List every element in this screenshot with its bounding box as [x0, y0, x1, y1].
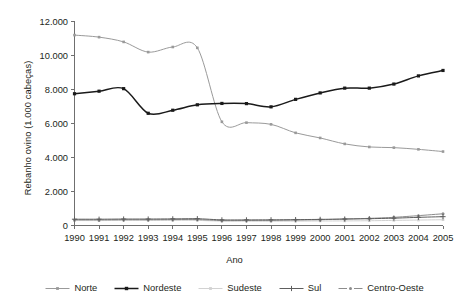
legend-label: Nordeste	[143, 283, 181, 292]
line-chart-figure: Rebanho ovino (1.000 cabeças) Ano 02.000…	[0, 0, 469, 302]
x-tick-label: 1990	[64, 233, 85, 243]
legend-swatch-square-icon	[45, 283, 70, 294]
y-tick-label: 0	[63, 221, 68, 231]
x-tick-label: 2000	[310, 233, 331, 243]
y-tick-label: 2.000	[45, 187, 68, 197]
plot-area: 02.0004.0006.0008.00010.00012.000 199019…	[0, 0, 469, 302]
y-tick-label: 4.000	[45, 153, 68, 163]
legend-swatch-dot-icon	[338, 283, 363, 294]
x-tick-label: 2005	[433, 233, 454, 243]
x-tick-label: 1991	[89, 233, 110, 243]
legend-swatch-cross-icon	[279, 283, 304, 294]
x-tick-label: 1993	[138, 233, 159, 243]
data-series-group	[72, 34, 446, 223]
x-tick-label: 1997	[236, 233, 257, 243]
y-tick-label: 10.000	[40, 51, 68, 61]
legend-item-sul[interactable]: Sul	[279, 283, 322, 294]
x-tick-label: 2003	[384, 233, 405, 243]
x-tick-label: 1995	[187, 233, 208, 243]
x-tick-label: 2002	[359, 233, 380, 243]
legend-label: Sul	[308, 283, 322, 292]
legend-item-sudeste[interactable]: Sudeste	[198, 283, 261, 294]
legend-swatch-square-icon	[198, 283, 223, 294]
y-axis-ticks: 02.0004.0006.0008.00010.00012.000	[40, 17, 75, 231]
x-tick-label: 1996	[212, 233, 233, 243]
x-tick-label: 2001	[334, 233, 355, 243]
legend-item-centro-oeste[interactable]: Centro-Oeste	[338, 283, 423, 294]
series-nordeste	[73, 69, 445, 115]
y-tick-label: 6.000	[45, 119, 68, 129]
x-axis-ticks: 1990199119921993199419951996199719981999…	[64, 226, 453, 243]
y-tick-label: 12.000	[40, 17, 68, 27]
y-tick-label: 8.000	[45, 85, 68, 95]
legend-label: Centro-Oeste	[367, 283, 423, 292]
legend-item-norte[interactable]: Norte	[45, 283, 97, 294]
x-tick-label: 1994	[162, 233, 183, 243]
series-line	[75, 70, 444, 114]
x-tick-label: 1999	[285, 233, 306, 243]
x-tick-label: 1992	[113, 233, 134, 243]
chart-legend: NorteNordesteSudesteSulCentro-Oeste	[0, 278, 469, 298]
legend-item-nordeste[interactable]: Nordeste	[114, 283, 181, 294]
legend-swatch-square-icon	[114, 283, 139, 294]
x-tick-label: 1998	[261, 233, 282, 243]
x-tick-label: 2004	[408, 233, 429, 243]
legend-label: Norte	[74, 283, 97, 292]
legend-label: Sudeste	[227, 283, 261, 292]
